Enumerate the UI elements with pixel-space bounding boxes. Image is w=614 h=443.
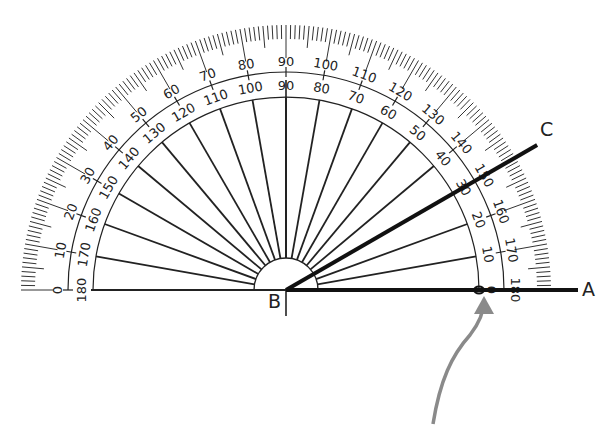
outer-scale-label: 30	[77, 165, 98, 187]
degree-tick	[312, 26, 313, 40]
degree-tick	[342, 32, 345, 46]
degree-tick	[528, 267, 550, 269]
degree-tick	[39, 195, 52, 200]
degree-tick	[317, 27, 319, 41]
point-label-c: C	[540, 120, 553, 139]
degree-tick	[380, 44, 385, 57]
degree-tick	[523, 204, 536, 209]
degree-tick	[134, 73, 147, 91]
degree-tick	[217, 34, 223, 55]
ten-degree-mark	[93, 179, 102, 184]
degree-tick	[191, 43, 196, 56]
degree-tick	[258, 26, 259, 40]
point-label-b: B	[268, 292, 281, 311]
outer-scale-label: 70	[197, 65, 218, 85]
degree-tick	[26, 239, 40, 242]
degree-tick	[254, 27, 256, 41]
degree-tick	[325, 28, 327, 42]
degree-tick	[48, 174, 61, 180]
degree-tick	[349, 34, 355, 55]
outer-scale-label: 130	[419, 101, 448, 128]
outer-scale-label: 90	[278, 54, 295, 69]
degree-tick	[520, 195, 533, 200]
degree-tick	[22, 262, 36, 263]
degree-tick	[537, 276, 551, 277]
inner-scale-label: 110	[202, 86, 230, 109]
outer-scale-label: 60	[161, 81, 183, 102]
outer-scale-label: 170	[502, 237, 521, 264]
degree-tick	[532, 235, 546, 238]
degree-tick	[321, 28, 323, 42]
degree-tick	[384, 46, 389, 59]
degree-tick	[364, 38, 368, 51]
degree-tick	[213, 35, 217, 48]
inner-scale-label: 170	[75, 241, 94, 268]
degree-tick	[525, 208, 538, 212]
degree-tick	[355, 35, 359, 48]
outer-scale-label: 140	[448, 128, 475, 157]
degree-tick	[512, 174, 525, 180]
inner-scale-label: 100	[237, 79, 264, 98]
degree-tick	[46, 178, 66, 187]
degree-tick	[388, 48, 394, 61]
radial-spoke	[311, 166, 434, 269]
degree-tick	[263, 26, 265, 48]
degree-tick	[187, 44, 192, 57]
degree-tick	[536, 272, 550, 273]
degree-tick	[519, 191, 532, 196]
degree-tick	[458, 103, 474, 119]
degree-tick	[33, 213, 46, 217]
protractor-svg: 0102030405060708090100110120130140150160…	[0, 0, 614, 443]
degree-tick	[534, 249, 548, 251]
outer-scale-label: 0	[50, 286, 65, 294]
inner-scale-label: 70	[346, 87, 367, 107]
degree-tick	[307, 26, 309, 48]
inner-scale-label: 130	[140, 119, 169, 146]
degree-tick	[21, 276, 35, 277]
degree-tick	[23, 258, 37, 260]
degree-tick	[272, 25, 273, 39]
degree-tick	[338, 31, 341, 45]
degree-tick	[99, 103, 115, 119]
degree-tick	[235, 30, 238, 44]
degree-tick	[299, 25, 300, 39]
degree-tick	[27, 235, 41, 238]
outer-scale-label: 20	[61, 201, 81, 222]
inner-scale-label: 160	[82, 206, 105, 234]
degree-tick	[334, 30, 337, 44]
degree-tick	[231, 31, 234, 45]
degree-tick	[531, 230, 545, 233]
outer-scale-label: 80	[237, 56, 256, 74]
inner-scale-label: 180	[74, 278, 89, 303]
degree-tick	[249, 28, 251, 42]
degree-tick	[536, 262, 550, 263]
degree-tick	[222, 33, 225, 47]
degree-tick	[28, 230, 42, 233]
inner-scale-label: 90	[278, 78, 295, 93]
degree-tick	[485, 138, 503, 151]
degree-tick	[204, 38, 208, 51]
outer-scale-label: 10	[52, 241, 70, 260]
degree-tick	[226, 32, 229, 46]
degree-tick	[268, 26, 269, 40]
degree-tick	[526, 213, 539, 217]
degree-tick	[24, 249, 38, 251]
degree-tick	[209, 37, 213, 50]
outer-scale-label: 120	[386, 79, 415, 104]
point-label-a: A	[582, 280, 595, 299]
degree-tick	[396, 52, 402, 65]
degree-tick	[245, 28, 247, 42]
degree-tick	[389, 50, 398, 70]
degree-tick	[178, 48, 184, 61]
inner-scale-label: 140	[115, 144, 142, 173]
degree-tick	[521, 221, 542, 227]
pointer-arrow-head	[474, 296, 494, 314]
degree-tick	[532, 239, 546, 242]
degree-tick	[359, 37, 363, 50]
degree-tick	[34, 208, 47, 212]
degree-tick	[515, 182, 528, 188]
radial-spoke	[162, 142, 265, 265]
degree-tick	[368, 39, 373, 52]
degree-tick	[530, 226, 544, 229]
inner-scale-label: 60	[378, 102, 400, 123]
